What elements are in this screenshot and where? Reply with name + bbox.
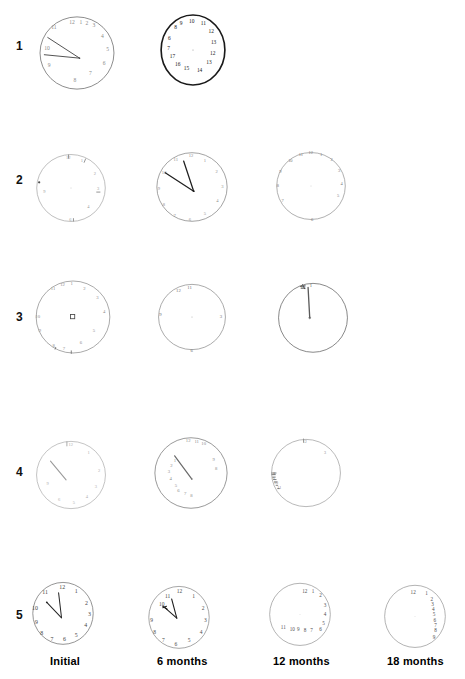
svg-text:8: 8: [153, 629, 156, 635]
svg-text:1: 1: [70, 281, 73, 286]
clock-center-dot: [415, 616, 416, 617]
svg-text:11: 11: [51, 286, 56, 291]
svg-text:9: 9: [180, 20, 183, 26]
svg-text:8: 8: [40, 630, 43, 636]
svg-text:1: 1: [87, 450, 89, 455]
clock-hands: [175, 456, 192, 479]
svg-text:8: 8: [190, 493, 193, 498]
svg-text:6: 6: [103, 60, 106, 66]
clock-numerals: 11 12 9 3 6: [159, 285, 222, 353]
svg-text:7: 7: [50, 636, 53, 642]
svg-text:10: 10: [189, 18, 195, 24]
svg-text:2: 2: [86, 20, 89, 26]
svg-text:2: 2: [202, 605, 205, 611]
clock-center-dot: [193, 190, 195, 192]
row-label-3: 3: [16, 311, 23, 323]
clock-hands: [163, 599, 177, 618]
svg-text:11: 11: [174, 157, 179, 162]
svg-text:11: 11: [194, 439, 199, 444]
clock-center-dot: [191, 316, 192, 317]
svg-text:16: 16: [175, 61, 181, 67]
svg-text:4: 4: [86, 494, 89, 499]
clock-numerals: 12 3 8 9 10 11: [272, 439, 326, 491]
svg-text:6: 6: [175, 641, 178, 647]
clock-r4c3: 12 3 8 9 10 11: [265, 432, 347, 514]
svg-text:4: 4: [324, 611, 327, 617]
svg-text:3: 3: [97, 186, 100, 191]
svg-text:1: 1: [81, 158, 83, 163]
clock-face: [36, 281, 110, 353]
svg-text:11: 11: [277, 485, 281, 490]
svg-text:4: 4: [200, 629, 203, 635]
clock-r1c1: 11 12 1 2 3 4 5 6 7 8 9 10: [34, 10, 120, 96]
svg-text:4: 4: [84, 622, 87, 628]
svg-text:12: 12: [189, 153, 194, 158]
svg-text:1: 1: [204, 158, 207, 163]
svg-text:9: 9: [46, 481, 49, 486]
svg-text:9: 9: [48, 62, 51, 68]
svg-text:11: 11: [201, 20, 207, 26]
svg-text:3: 3: [324, 602, 327, 608]
clock-r3c1: 11 12 1 2 3 4 5 6 7 8 9 10: [30, 275, 116, 359]
clock-mark-dot: [38, 181, 40, 183]
clock-center-dot: [311, 186, 312, 187]
svg-text:7: 7: [282, 198, 285, 203]
svg-text:3: 3: [88, 611, 91, 617]
svg-text:7: 7: [167, 45, 170, 51]
svg-text:9: 9: [39, 328, 42, 333]
svg-text:3: 3: [324, 450, 326, 455]
svg-text:8: 8: [52, 343, 55, 348]
svg-text:5: 5: [75, 632, 78, 638]
svg-text:5: 5: [204, 211, 207, 216]
row-label-2: 2: [16, 174, 23, 186]
svg-text:13: 13: [211, 39, 217, 45]
clock-center-dot: [191, 478, 193, 480]
svg-text:1: 1: [80, 19, 83, 25]
clock-face: [279, 283, 348, 352]
svg-text:1: 1: [75, 588, 78, 594]
svg-text:2: 2: [83, 286, 86, 291]
svg-text:2: 2: [94, 171, 96, 176]
svg-text:10: 10: [32, 605, 38, 611]
clock-numerals: 12 1 2 3 4 6 9: [43, 155, 100, 222]
row-label-4: 4: [16, 466, 23, 478]
clock-face: [272, 439, 341, 506]
clock-r2c3: 11 12 1 2 3 4 5 6 7 8 9 10: [270, 146, 352, 226]
column-label-initial: Initial: [50, 656, 80, 667]
svg-text:9: 9: [159, 312, 162, 317]
clock-r2c1: 12 1 2 3 4 6 9: [30, 148, 112, 228]
svg-text:11: 11: [281, 624, 286, 630]
svg-text:1: 1: [192, 593, 195, 599]
svg-text:4: 4: [101, 33, 104, 39]
svg-text:8: 8: [215, 466, 218, 471]
svg-text:11: 11: [165, 593, 171, 599]
svg-text:6: 6: [177, 488, 180, 493]
clock-hands: [47, 593, 62, 618]
svg-text:9: 9: [433, 634, 436, 640]
clock-r5c2: 12 1 2 3 4 5 6 7 8 9 10 11: [142, 582, 216, 652]
column-label-18-months: 18 months: [387, 656, 444, 667]
clock-numerals: 12 1 2 3 4 5 6 7 8 9: [411, 589, 438, 639]
clock-r4c1: 12 1 2 3 4 5 6 9: [30, 434, 112, 516]
clock-face: [149, 586, 209, 648]
svg-text:10: 10: [159, 601, 165, 607]
svg-text:6: 6: [190, 348, 193, 353]
svg-text:6: 6: [168, 35, 171, 41]
clock-numerals: 10 9 8 11 12 13 12 13 14 15 16 17 7 6: [167, 18, 216, 73]
svg-text:12: 12: [209, 28, 215, 34]
svg-text:11: 11: [187, 285, 192, 290]
svg-text:5: 5: [322, 620, 325, 626]
svg-text:4: 4: [216, 198, 219, 203]
clock-r5c3: 12 1 2 3 4 5 6 7 8 9 10 11: [263, 578, 337, 650]
svg-text:11: 11: [51, 24, 57, 30]
svg-text:9: 9: [150, 617, 153, 623]
svg-text:12: 12: [59, 584, 65, 590]
svg-text:2: 2: [319, 592, 322, 598]
svg-text:8: 8: [434, 627, 437, 633]
svg-text:12: 12: [69, 442, 73, 447]
svg-text:2: 2: [331, 157, 333, 162]
clock-r3c3: 12 1: [272, 276, 354, 358]
clock-center-square: [70, 314, 74, 318]
clock-numerals: 12 1 2 3 4 5 6 7 8 9 10 11: [281, 588, 327, 633]
clock-center-dot: [300, 614, 301, 615]
